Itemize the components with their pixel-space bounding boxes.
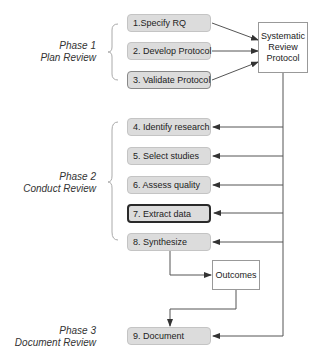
phase-1-number: Phase 1: [0, 40, 96, 52]
phase-2-label: Phase 2 Conduct Review: [0, 171, 96, 195]
protocol-document: Systematic Review Protocol: [258, 22, 308, 73]
step-develop-protocol: 2. Develop Protocol: [127, 42, 211, 60]
step-assess-quality: 6. Assess quality: [127, 176, 211, 194]
protocol-line-2: Review: [268, 42, 298, 53]
outcomes-document: Outcomes: [212, 260, 260, 290]
phase-3-number: Phase 3: [0, 325, 96, 337]
step-specify-rq: 1.Specify RQ: [127, 14, 211, 32]
phase-2-title: Conduct Review: [0, 183, 96, 195]
protocol-line-1: Systematic: [261, 31, 305, 42]
protocol-line-3: Protocol: [266, 53, 299, 64]
phase-1-label: Phase 1 Plan Review: [0, 40, 96, 64]
phase-2-number: Phase 2: [0, 171, 96, 183]
phase-3-label: Phase 3 Document Review: [0, 325, 96, 349]
step-select-studies: 5. Select studies: [127, 147, 211, 165]
phase1-brace: [108, 24, 118, 80]
step-document: 9. Document: [127, 327, 211, 345]
step-validate-protocol: 3. Validate Protocol: [127, 71, 211, 89]
step-synthesize: 8. Synthesize: [127, 233, 211, 251]
phase-3-title: Document Review: [0, 337, 96, 349]
step-extract-data: 7. Extract data: [127, 204, 211, 223]
step-identify-research: 4. Identify research: [127, 118, 211, 136]
phase-1-title: Plan Review: [0, 52, 96, 64]
outcomes-label: Outcomes: [215, 270, 256, 281]
phase2-brace: [108, 122, 118, 240]
